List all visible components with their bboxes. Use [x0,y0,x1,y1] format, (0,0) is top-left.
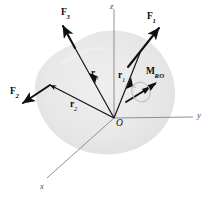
force-3-line [63,26,75,48]
position-vector-2-label: r2 [70,100,77,111]
force-1-label: F1 [147,12,156,24]
force-3-subscript: 3 [66,13,69,20]
y-axis-label: y [197,111,201,120]
z-axis-label: z [110,2,113,11]
position-vector-1-label: r1 [118,71,125,82]
moment-subscript-o: O [159,72,164,79]
position-vector-2-subscript: 2 [74,105,77,112]
force-3-label: F3 [61,8,70,20]
position-vector-3-subscript: 3 [95,74,98,81]
origin-label: O [116,119,123,129]
moment-symbol: M [146,66,155,76]
resultant-moment-label: MRO [146,67,164,79]
mechanics-diagram: z y x O F1 F2 F3 r1 r2 r3 MRO [0,0,208,199]
position-vector-1-subscript: 1 [122,76,125,83]
rigid-body-blob [35,30,175,154]
force-2-subscript: 2 [15,92,18,99]
position-vector-3-label: r3 [91,69,98,80]
force-2-label: F2 [10,87,19,99]
diagram-canvas [0,0,208,199]
x-axis-label: x [40,182,44,191]
force-1-subscript: 1 [152,17,155,24]
